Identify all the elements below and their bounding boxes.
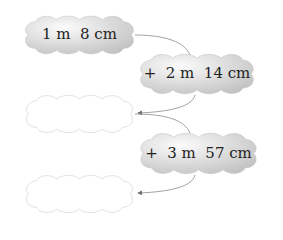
arrow-result1-to-add2	[135, 114, 190, 133]
arrow-start-to-add1	[135, 35, 190, 55]
cloud-start-text: 1 m 8 cm	[22, 27, 137, 42]
cloud-add-2-text: + 3 m 57 cm	[130, 146, 267, 161]
cloud-result-1-empty[interactable]	[26, 95, 132, 132]
arrow-add1-to-result1	[138, 95, 195, 113]
cloud-result-2-empty[interactable]	[26, 175, 132, 212]
cloud-add-1-text: + 2 m 14 cm	[128, 66, 266, 81]
arrow-add2-to-result2	[138, 175, 195, 193]
